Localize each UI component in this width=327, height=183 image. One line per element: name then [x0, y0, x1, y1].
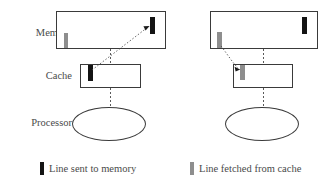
- legend-label-sent-to-memory: Line sent to memory: [49, 163, 136, 175]
- legend-label-fetched-from-cache: Line fetched from cache: [199, 163, 301, 175]
- connector-overlay: [0, 0, 327, 183]
- left-write-back-arrow-shaft: [92, 27, 148, 70]
- legend-black-swatch-icon: [40, 162, 44, 175]
- diagram-root: Memory Cache Processor Line sent to memo…: [0, 0, 327, 183]
- legend-line-sent-to-memory: Line sent to memory: [40, 162, 136, 175]
- legend-line-fetched-from-cache: Line fetched from cache: [190, 162, 301, 175]
- legend-gray-swatch-icon: [190, 162, 194, 175]
- right-fetch-arrow-head: [235, 67, 241, 72]
- right-fetch-arrow-shaft: [221, 46, 238, 68]
